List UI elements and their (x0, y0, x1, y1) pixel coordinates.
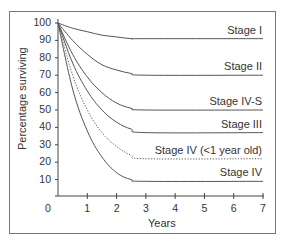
label-stage-ii: Stage II (224, 60, 262, 72)
x-tick-label: 3 (139, 202, 153, 214)
label-stage-iv-infant: Stage IV (<1 year old) (155, 144, 262, 156)
y-tick-label: 60 (27, 86, 51, 98)
y-tick-label: 50 (27, 103, 51, 115)
label-stage-iv: Stage IV (220, 166, 262, 178)
y-tick-label: 40 (27, 120, 51, 132)
label-stage-iii: Stage III (221, 118, 262, 130)
curve-stage-iii (58, 23, 263, 133)
x-tick-label: 5 (197, 202, 211, 214)
label-stage-iv-s: Stage IV-S (209, 95, 262, 107)
y-tick-label: 30 (27, 138, 51, 150)
y-tick-label: 80 (27, 51, 51, 63)
x-tick-label: 7 (256, 202, 270, 214)
y-tick-label: 20 (27, 155, 51, 167)
y-tick-label: 100 (27, 16, 51, 28)
x-axis-label: Years (148, 217, 176, 229)
y-tick-label: 70 (27, 68, 51, 80)
curve-stage-iv-1-year-old (58, 23, 263, 159)
x-tick-label: 0 (41, 202, 55, 214)
x-tick-label: 6 (227, 202, 241, 214)
x-tick-label: 1 (80, 202, 94, 214)
y-tick-label: 90 (27, 33, 51, 45)
y-tick-label: 10 (27, 173, 51, 185)
x-tick-label: 4 (168, 202, 182, 214)
x-tick-label: 2 (110, 202, 124, 214)
label-stage-i: Stage I (227, 24, 262, 36)
